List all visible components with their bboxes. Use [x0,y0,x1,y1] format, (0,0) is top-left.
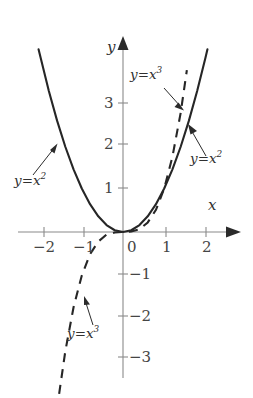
y-tick-label--3: −3 [129,350,151,365]
x-tick-label--1: −1 [73,240,95,255]
y-axis-arrowhead [118,36,129,50]
ann-right-x: x [209,150,217,166]
ann-lower-y: y [67,325,75,341]
leader-lower-cubic [84,296,93,325]
annotation-upper-cubic: y=x3 [130,66,162,81]
annotation-right-parabola: y=x2 [190,150,222,165]
y-axis [118,36,129,378]
ann-upper-y: y [130,66,138,82]
x-axis-arrowhead [226,227,241,238]
ann-left-exp: 2 [41,171,47,181]
annotation-lower-cubic: y=x3 [67,325,99,340]
ann-upper-x: x [149,66,157,82]
x-tick-label-0: 0 [127,240,137,255]
math-plot-figure: −2 −1 0 1 2 3 2 1 −1 −2 −3 x y y=x2 y=x2… [0,0,253,398]
ann-lower-eq: = [75,325,86,341]
ann-lower-x: x [86,325,94,341]
ann-right-y: y [190,150,198,166]
annotation-left-parabola: y=x2 [14,172,46,187]
x-tick-label-2: 2 [202,240,212,255]
y-tick-label--2: −2 [129,309,151,324]
ann-right-exp: 2 [217,149,223,159]
y-tick-label-3: 3 [104,96,114,111]
ann-right-eq: = [198,150,209,166]
x-tick-label-1: 1 [162,240,172,255]
x-tick-label--2: −2 [33,240,55,255]
y-axis-label: y [107,40,115,55]
ann-left-x: x [33,172,41,188]
ann-left-eq: = [22,172,33,188]
y-tick-label-1: 1 [104,181,114,196]
ann-upper-exp: 3 [157,65,163,75]
ann-lower-exp: 3 [94,324,100,334]
y-tick-label-2: 2 [104,137,114,152]
x-axis-label: x [208,198,216,213]
ann-upper-eq: = [138,66,149,82]
ann-left-y: y [14,172,22,188]
leader-upper-cubic [164,88,184,111]
y-tick-label--1: −1 [129,267,151,282]
